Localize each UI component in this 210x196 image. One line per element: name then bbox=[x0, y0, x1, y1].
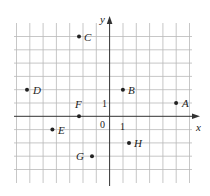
origin-label: 0 bbox=[100, 119, 105, 130]
svg-text:B: B bbox=[128, 84, 135, 96]
x-axis-arrow-icon bbox=[192, 114, 200, 120]
coordinate-plane: x y 0 1 1 A B C D E F G H bbox=[0, 0, 210, 196]
svg-text:A: A bbox=[181, 97, 189, 109]
x-axis-label: x bbox=[195, 121, 201, 133]
point-h: H bbox=[127, 137, 143, 149]
svg-text:C: C bbox=[84, 31, 92, 43]
point-c: C bbox=[77, 31, 92, 43]
point-f: F bbox=[74, 98, 82, 118]
svg-text:F: F bbox=[74, 98, 82, 110]
y-axis-label: y bbox=[99, 13, 105, 25]
svg-text:D: D bbox=[32, 84, 41, 96]
y-axis-arrow-icon bbox=[107, 16, 113, 24]
svg-text:H: H bbox=[133, 137, 143, 149]
point-e: E bbox=[50, 124, 65, 136]
svg-text:E: E bbox=[57, 124, 65, 136]
x-tick-label: 1 bbox=[120, 121, 125, 132]
point-d: D bbox=[25, 84, 41, 96]
svg-text:G: G bbox=[76, 150, 84, 162]
y-tick-label: 1 bbox=[102, 98, 107, 109]
